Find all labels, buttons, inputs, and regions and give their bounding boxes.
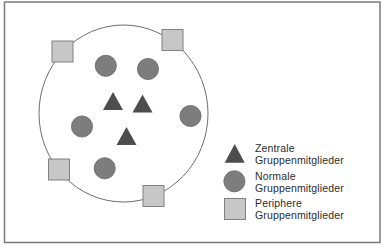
legend-label-line2: Gruppenmitglieder — [255, 209, 344, 221]
circle-icon — [224, 171, 245, 192]
peripheral-member-node — [49, 159, 70, 180]
normal-member-node — [180, 105, 201, 126]
normal-member-node — [94, 158, 115, 179]
peripheral-member-node — [52, 41, 73, 62]
legend-label-line1: Zentrale — [255, 142, 344, 154]
normal-member-node — [71, 116, 92, 137]
legend-item-normal: Normale Gruppenmitglieder — [255, 170, 344, 194]
legend-label-line2: Gruppenmitglieder — [255, 182, 344, 194]
legend-label-line1: Normale — [255, 170, 344, 182]
legend-label-line1: Periphere — [255, 197, 344, 209]
normal-member-node — [95, 55, 116, 76]
legend-item-peripheral: Periphere Gruppenmitglieder — [255, 197, 344, 221]
peripheral-member-node — [143, 186, 164, 207]
square-icon — [225, 199, 246, 220]
legend-item-central: Zentrale Gruppenmitglieder — [255, 142, 344, 166]
legend-label-line2: Gruppenmitglieder — [255, 154, 344, 166]
normal-member-node — [137, 58, 158, 79]
peripheral-member-node — [162, 30, 183, 51]
